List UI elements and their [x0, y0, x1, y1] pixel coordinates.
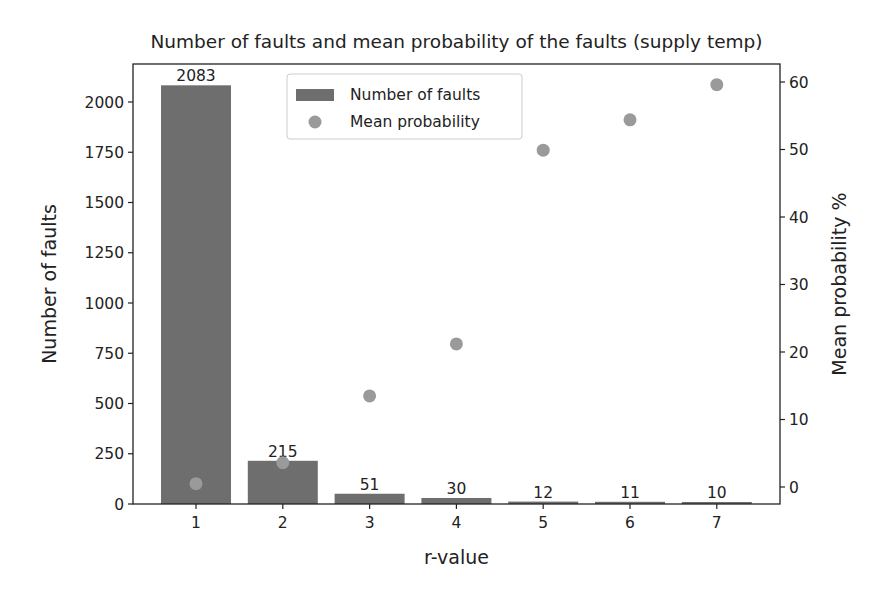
legend-label-probability: Mean probability — [350, 113, 480, 131]
x-tick-label: 2 — [278, 514, 288, 532]
y-right-tick-label: 50 — [789, 141, 809, 159]
x-tick-label: 4 — [451, 514, 461, 532]
legend-point-swatch — [309, 116, 322, 129]
y-right-tick-label: 40 — [789, 209, 809, 227]
y-right-tick-label: 0 — [789, 479, 799, 497]
scatter-point — [537, 144, 550, 157]
bar — [421, 498, 491, 504]
x-tick-label: 5 — [538, 514, 548, 532]
chart-title: Number of faults and mean probability of… — [150, 31, 762, 52]
x-axis-label: r-value — [424, 546, 489, 568]
bar — [335, 494, 405, 504]
y-axis-label: Number of faults — [38, 204, 60, 364]
y-right-tick-label: 60 — [789, 74, 809, 92]
y-tick-label: 250 — [94, 445, 124, 463]
bar-value-label: 30 — [447, 480, 467, 498]
y-tick-label: 750 — [94, 345, 124, 363]
x-tick-label: 1 — [191, 514, 201, 532]
y-tick-label: 1750 — [85, 144, 124, 162]
scatter-point — [624, 113, 637, 126]
scatter-point — [450, 337, 463, 350]
y-tick-label: 2000 — [85, 94, 124, 112]
y-tick-label: 1000 — [85, 295, 124, 313]
chart: Number of faults and mean probability of… — [0, 0, 886, 595]
y-tick-label: 1500 — [85, 194, 124, 212]
x-tick-label: 3 — [365, 514, 375, 532]
x-tick-label: 7 — [712, 514, 722, 532]
scatter-point — [363, 389, 376, 402]
bar-value-label: 12 — [533, 484, 553, 502]
y-tick-label: 0 — [114, 496, 124, 514]
scatter-point — [190, 477, 203, 490]
bar-value-label: 10 — [707, 484, 727, 502]
y-right-tick-label: 10 — [789, 411, 809, 429]
y-right-axis-label: Mean probability % — [828, 192, 850, 375]
y-tick-label: 500 — [94, 395, 124, 413]
bar-value-label: 11 — [620, 484, 640, 502]
legend-bar-swatch — [296, 89, 334, 101]
y-right-tick-label: 20 — [789, 344, 809, 362]
scatter-point — [710, 78, 723, 91]
x-tick-label: 6 — [625, 514, 635, 532]
bar-value-label: 51 — [360, 476, 380, 494]
bar — [161, 85, 231, 504]
y-right-tick-label: 30 — [789, 276, 809, 294]
legend-label-faults: Number of faults — [350, 86, 480, 104]
y-tick-label: 1250 — [85, 244, 124, 262]
bar-value-label: 2083 — [176, 67, 215, 85]
scatter-point — [276, 456, 289, 469]
